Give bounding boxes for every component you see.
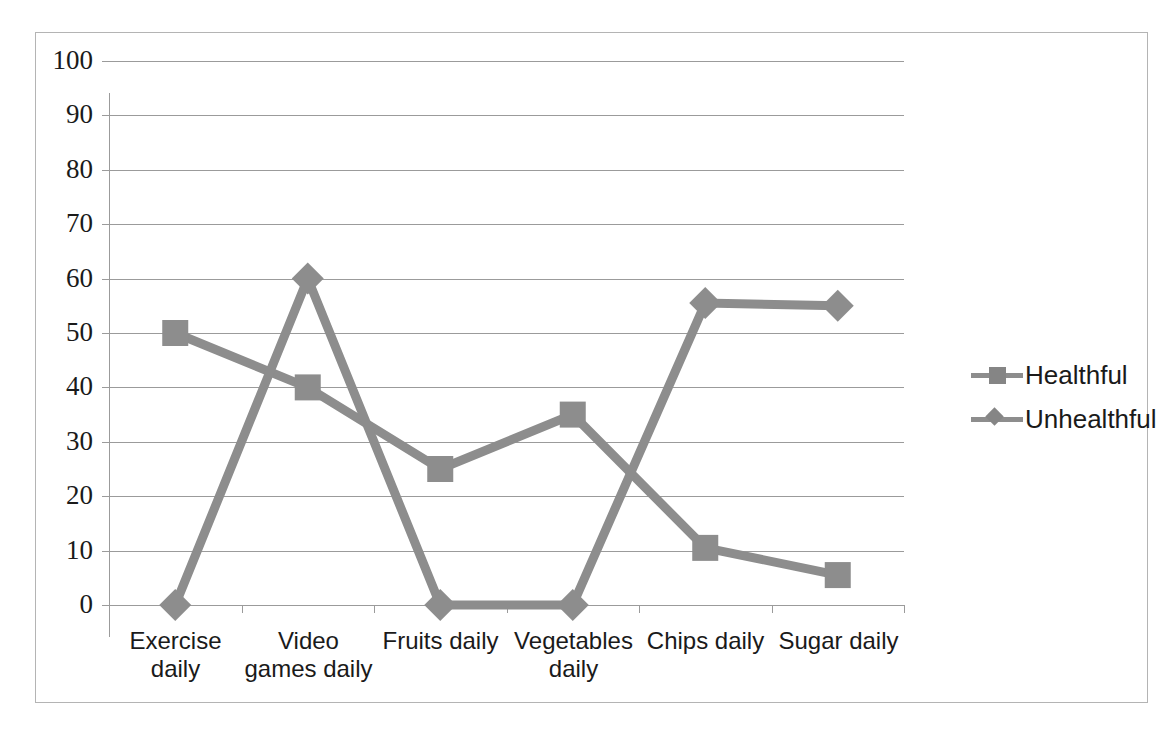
data-point-marker-diamond [557, 589, 589, 621]
data-point-marker-diamond [822, 290, 854, 322]
data-point-marker-diamond [689, 287, 721, 319]
chart-screenshot: 1009080706050403020100 Exercise dailyVid… [0, 0, 1175, 737]
data-point-marker-square [560, 402, 586, 428]
data-point-marker-square [295, 374, 321, 400]
data-point-marker-square [825, 562, 851, 588]
legend-marker-diamond-icon [971, 406, 1023, 432]
data-point-marker-diamond [292, 263, 324, 295]
legend-label-unhealthful: Unhealthful [1025, 404, 1157, 435]
data-point-marker-diamond [424, 589, 456, 621]
chart-legend: Healthful Unhealthful [971, 353, 1175, 441]
data-point-marker-square [427, 456, 453, 482]
chart-frame: 1009080706050403020100 Exercise dailyVid… [35, 32, 1148, 703]
data-point-marker-square [162, 320, 188, 346]
data-point-marker-square [692, 535, 718, 561]
data-point-marker-diamond [159, 589, 191, 621]
legend-label-healthful: Healthful [1025, 360, 1128, 391]
legend-marker-square-icon [971, 362, 1023, 388]
legend-entry-healthful[interactable]: Healthful [971, 353, 1175, 397]
legend-entry-unhealthful[interactable]: Unhealthful [971, 397, 1175, 441]
